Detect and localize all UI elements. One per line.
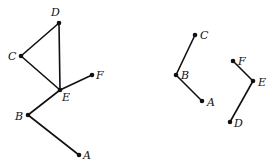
node-label-B: B bbox=[14, 110, 23, 123]
node-B bbox=[26, 113, 31, 118]
node-label-D: D bbox=[50, 6, 60, 19]
node-label-A: A bbox=[206, 96, 215, 109]
edge-D-E bbox=[59, 23, 60, 90]
node-label-E: E bbox=[257, 76, 266, 89]
edge-C-E bbox=[21, 56, 60, 90]
node-F bbox=[231, 59, 236, 64]
node-D bbox=[228, 120, 233, 125]
node-A bbox=[77, 153, 82, 158]
node-label-C: C bbox=[8, 50, 17, 63]
graph-left: DCEFBA bbox=[8, 6, 104, 162]
node-D bbox=[57, 21, 62, 26]
node-label-A: A bbox=[82, 149, 91, 162]
graph-diagram: DCEFBA CBAFED bbox=[0, 0, 274, 166]
edge-D-C bbox=[21, 23, 59, 56]
edge-E-B bbox=[28, 90, 60, 115]
edge-B-A bbox=[28, 115, 79, 155]
node-label-C: C bbox=[200, 29, 209, 42]
edge-E-F bbox=[60, 75, 92, 90]
graph-right: CBAFED bbox=[174, 29, 266, 130]
node-F bbox=[90, 73, 95, 78]
node-B bbox=[174, 73, 179, 78]
node-label-E: E bbox=[61, 91, 70, 104]
node-label-F: F bbox=[95, 69, 104, 82]
node-label-F: F bbox=[237, 55, 246, 68]
node-C bbox=[19, 54, 24, 59]
edge-E-D bbox=[230, 81, 253, 122]
node-E bbox=[251, 79, 256, 84]
node-label-D: D bbox=[233, 117, 243, 130]
node-C bbox=[193, 33, 198, 38]
node-A bbox=[200, 99, 205, 104]
node-label-B: B bbox=[180, 69, 189, 82]
